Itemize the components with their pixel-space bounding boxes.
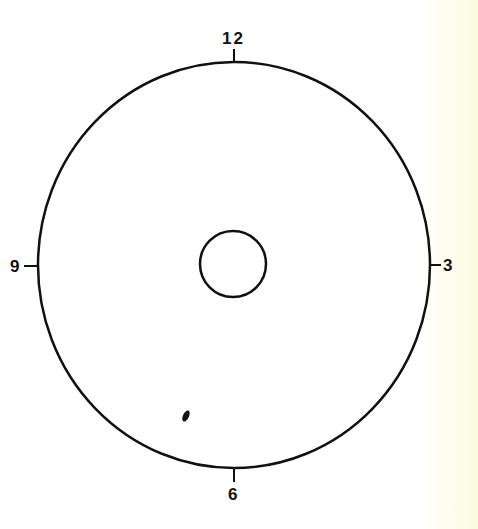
outer-circle (38, 62, 430, 468)
marker-spot (181, 409, 192, 422)
label-9: 9 (10, 258, 19, 275)
label-3: 3 (443, 257, 452, 274)
label-12: 12 (222, 30, 245, 47)
label-6: 6 (228, 486, 237, 503)
inner-circle (200, 231, 266, 297)
clock-disc-diagram (0, 0, 478, 529)
